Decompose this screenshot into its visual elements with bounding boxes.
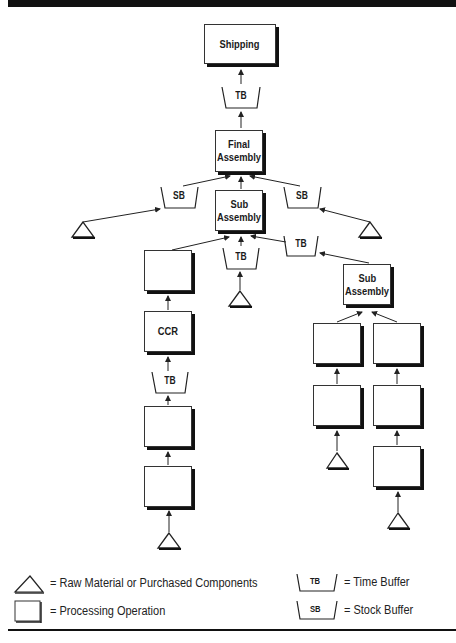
legend-stock-buffer-text: = Stock Buffer: [344, 603, 413, 617]
processing-operation-right-b3: [373, 446, 421, 487]
sub-assembly-center-label-line1: Sub: [230, 198, 248, 211]
processing-operation-left-2: [144, 406, 192, 447]
sub-assembly-center-label-line2: Assembly: [217, 211, 261, 224]
processing-operation-right-a1: [313, 323, 361, 364]
final-assembly-node: Final Assembly: [215, 130, 263, 172]
flow-connectors: [0, 0, 456, 643]
raw-material-triangle-ccr-chain: [158, 533, 180, 548]
final-assembly-label-line1: Final: [228, 138, 250, 151]
ccr-node: CCR: [144, 311, 192, 352]
processing-operation-left-1: [144, 250, 192, 291]
bottom-rule: [8, 629, 456, 631]
sub-assembly-right-node: Sub Assembly: [343, 264, 391, 305]
processing-operation-right-b1: [373, 323, 421, 364]
sub-assembly-right-label-line1: Sub: [358, 272, 376, 285]
legend-processing-operation-text: = Processing Operation: [50, 604, 165, 618]
legend-raw-material-text: = Raw Material or Purchased Components: [50, 576, 258, 590]
sb-label-right: SB: [294, 190, 311, 201]
raw-material-triangle-center: [229, 291, 251, 306]
legend-square-icon: [15, 601, 40, 621]
legend-triangle-icon: [15, 576, 43, 592]
tb-label-center: TB: [233, 251, 250, 262]
final-assembly-label-line2: Assembly: [217, 151, 261, 164]
sub-assembly-center-node: Sub Assembly: [215, 190, 263, 231]
tb-label-right: TB: [293, 238, 310, 249]
legend-time-buffer-text: = Time Buffer: [344, 575, 410, 589]
processing-operation-right-a2: [313, 385, 361, 426]
shipping-node: Shipping: [204, 24, 276, 64]
raw-material-triangle-right: [359, 222, 381, 237]
raw-material-triangle-left: [72, 222, 94, 237]
sub-assembly-right-label-line2: Assembly: [345, 285, 389, 298]
legend-tb-symbol: TB: [310, 576, 320, 586]
processing-operation-right-b2: [373, 385, 421, 426]
tb-label-ccr: TB: [162, 375, 179, 386]
ccr-label: CCR: [158, 325, 178, 338]
raw-material-triangle-right-col2: [388, 513, 409, 528]
sb-label-left: SB: [171, 190, 188, 201]
tb-label-shipping: TB: [233, 90, 250, 101]
shipping-label: Shipping: [220, 38, 260, 51]
raw-material-triangle-right-col1: [327, 453, 348, 468]
processing-operation-left-3: [144, 466, 192, 507]
legend-sb-symbol: SB: [310, 604, 321, 614]
